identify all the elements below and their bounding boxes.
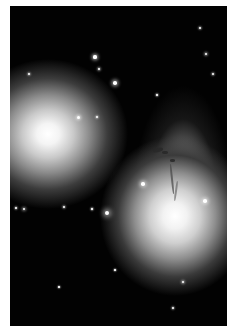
dust-lane <box>162 151 168 154</box>
star <box>77 116 80 119</box>
star <box>93 55 96 58</box>
galaxy-left <box>10 59 128 209</box>
star <box>63 206 65 208</box>
star <box>113 81 117 85</box>
star <box>28 73 30 75</box>
star <box>199 27 201 29</box>
dust-lane <box>169 164 174 194</box>
galaxy-right <box>100 136 227 296</box>
star <box>114 269 115 270</box>
star <box>182 281 184 283</box>
star <box>172 307 174 309</box>
star <box>156 94 158 96</box>
astronomy-image <box>10 6 227 326</box>
star <box>212 73 214 75</box>
star <box>105 211 110 216</box>
dust-lane <box>174 181 179 201</box>
star <box>23 208 26 211</box>
star <box>91 208 93 210</box>
star <box>58 286 59 287</box>
star <box>96 116 98 118</box>
tidal-plume <box>128 56 227 256</box>
star <box>205 53 207 55</box>
dust-lane <box>170 159 175 162</box>
star <box>15 207 17 209</box>
star <box>141 182 145 186</box>
star <box>98 68 100 70</box>
star <box>203 199 207 203</box>
